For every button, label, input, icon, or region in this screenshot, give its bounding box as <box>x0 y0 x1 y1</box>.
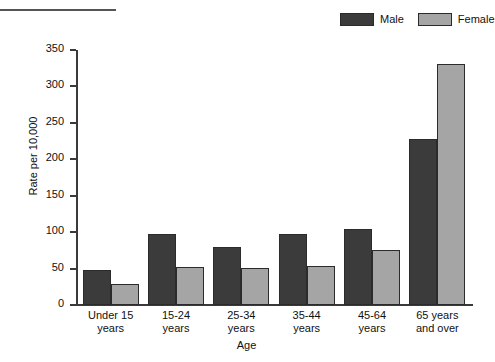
x-axis-category-label: 25-34years <box>209 309 274 335</box>
x-axis-category-label: 35-44years <box>274 309 339 335</box>
y-axis-tick-label: 150 <box>0 188 64 200</box>
y-axis-tick-label: 250 <box>0 115 64 127</box>
chart-legend: Male Female <box>340 13 495 26</box>
x-axis-category-labels: Under 15years15-24years25-34years35-44ye… <box>78 309 470 335</box>
y-axis-tick-mark <box>70 49 76 51</box>
y-axis-tick-mark <box>70 304 76 306</box>
y-axis-tick-mark <box>70 268 76 270</box>
legend-swatch-female <box>418 13 452 26</box>
legend-label-female: Female <box>458 13 495 26</box>
y-axis-tick-label: 0 <box>0 297 64 309</box>
y-axis-tick-mark <box>70 231 76 233</box>
x-axis-category-label: 15-24years <box>143 309 208 335</box>
bar-group <box>78 50 143 305</box>
x-axis-category-label-line: 65 years <box>405 309 470 322</box>
x-axis-category-label-line: years <box>78 322 143 335</box>
legend-swatch-male <box>340 13 374 26</box>
y-axis-tick-label: 300 <box>0 78 64 90</box>
x-axis-category-label-line: 15-24 <box>143 309 208 322</box>
x-axis-category-label-line: years <box>209 322 274 335</box>
x-axis-category-label-line: 45-64 <box>339 309 404 322</box>
x-axis-category-label-line: Under 15 <box>78 309 143 322</box>
bar-female[interactable] <box>307 266 335 305</box>
x-axis-category-label-line: years <box>339 322 404 335</box>
bar-group <box>405 50 470 305</box>
y-axis-tick-mark <box>70 122 76 124</box>
bar-male[interactable] <box>344 229 372 305</box>
x-axis-category-label-line: years <box>274 322 339 335</box>
bar-female[interactable] <box>241 268 269 305</box>
bar-male[interactable] <box>409 139 437 305</box>
bar-groups <box>78 50 470 305</box>
y-axis-tick-mark <box>70 85 76 87</box>
bar-group <box>209 50 274 305</box>
bar-group <box>143 50 208 305</box>
bar-male[interactable] <box>83 270 111 305</box>
bar-female[interactable] <box>437 64 465 305</box>
bar-male[interactable] <box>148 234 176 305</box>
bar-group <box>339 50 404 305</box>
x-axis-category-label-line: 35-44 <box>274 309 339 322</box>
y-axis-tick-label: 350 <box>0 42 64 54</box>
legend-label-male: Male <box>380 13 404 26</box>
y-axis-tick-label: 50 <box>0 261 64 273</box>
bar-male[interactable] <box>279 234 307 305</box>
x-axis-category-label: 45-64years <box>339 309 404 335</box>
x-axis-category-label-line: and over <box>405 322 470 335</box>
x-axis-category-label-line: years <box>143 322 208 335</box>
bar-male[interactable] <box>213 247 241 305</box>
y-axis-tick-mark <box>70 158 76 160</box>
x-axis-title: Age <box>0 339 493 351</box>
bar-female[interactable] <box>111 284 139 305</box>
x-axis-category-label: 65 yearsand over <box>405 309 470 335</box>
y-axis-tick-label: 100 <box>0 224 64 236</box>
y-axis-tick-label: 200 <box>0 151 64 163</box>
legend-item-male: Male <box>340 13 404 26</box>
legend-item-female: Female <box>418 13 495 26</box>
y-axis-tick-mark <box>70 195 76 197</box>
bar-female[interactable] <box>176 267 204 305</box>
bar-group <box>274 50 339 305</box>
x-axis-category-label-line: 25-34 <box>209 309 274 322</box>
x-axis-category-label: Under 15years <box>78 309 143 335</box>
bar-female[interactable] <box>372 250 400 305</box>
